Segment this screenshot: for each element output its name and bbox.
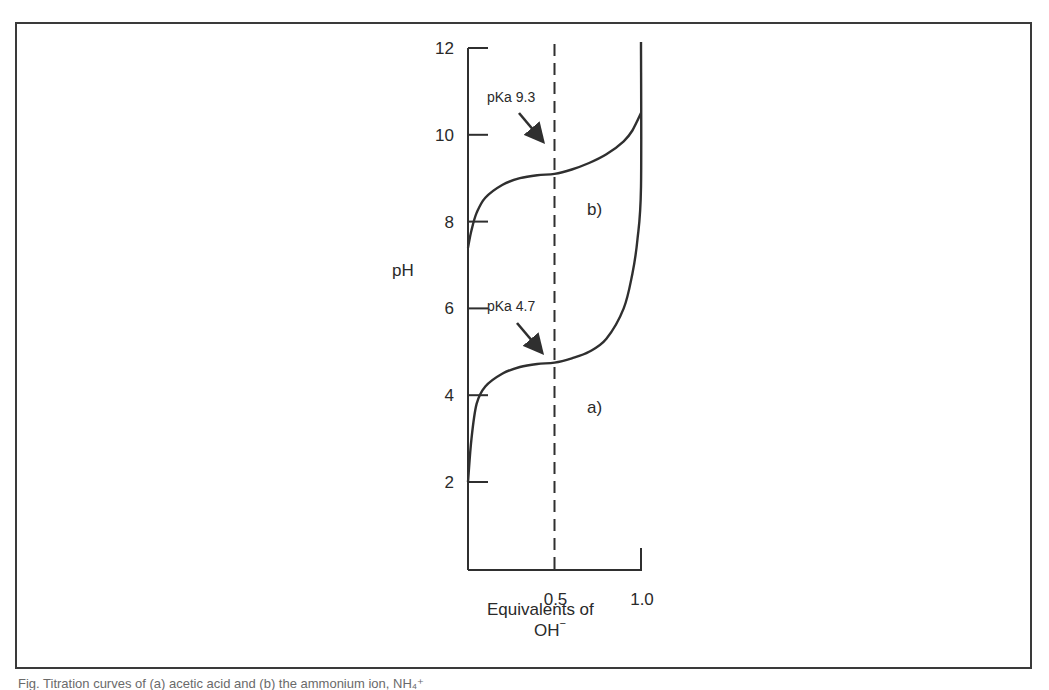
titration-chart: 24681012 0.51.0 pKa 9.3pKa 4.7 pH Equiva…: [0, 0, 1049, 690]
x-axis-title-line1: Equivalents of: [487, 600, 594, 619]
series-label-a: a): [587, 398, 602, 417]
oh-text: OH: [534, 621, 560, 640]
titration-figure: 24681012 0.51.0 pKa 9.3pKa 4.7 pH Equiva…: [0, 0, 1049, 690]
y-tick-label: 10: [435, 126, 454, 145]
pka-label-b: pKa 9.3: [487, 89, 535, 105]
figure-caption: Fig. Titration curves of (a) acetic acid…: [18, 676, 424, 690]
y-axis-title: pH: [392, 261, 414, 280]
series-label-b: b): [587, 200, 602, 219]
arrow-icon: [517, 323, 539, 349]
pka-label-a: pKa 4.7: [487, 298, 535, 314]
arrow-icon: [519, 113, 540, 138]
x-axis-title-line2: OH−: [534, 617, 566, 640]
y-tick-label: 12: [435, 39, 454, 58]
pka-annotations: pKa 9.3pKa 4.7: [487, 89, 540, 349]
y-tick-label: 4: [445, 386, 454, 405]
x-tick-label: 1.0: [630, 590, 654, 609]
y-axis-ticks: 24681012: [435, 39, 488, 492]
y-tick-label: 6: [445, 299, 454, 318]
minus-superscript: −: [560, 617, 566, 629]
y-tick-label: 2: [445, 473, 454, 492]
y-tick-label: 8: [445, 213, 454, 232]
